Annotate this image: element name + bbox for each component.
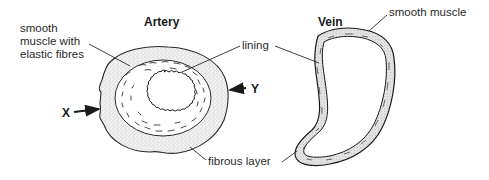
vein-cross-section: [295, 28, 395, 166]
leader-vein-smooth-muscle: [369, 15, 387, 31]
label-fibrous-layer: fibrous layer: [208, 155, 271, 168]
label-smooth-muscle-line3: elastic fibres: [20, 48, 84, 61]
marker-x: X: [62, 106, 70, 120]
label-smooth-muscle-line2: muscle with: [20, 35, 80, 48]
artery-title: Artery: [144, 15, 179, 29]
label-vein-smooth-muscle: smooth muscle: [389, 6, 466, 19]
leader-artery-fibrous: [190, 147, 206, 160]
artery-lining: [147, 70, 195, 111]
arrow-x: [74, 109, 99, 112]
marker-y: Y: [251, 82, 259, 96]
leader-vein-fibrous: [282, 151, 297, 162]
label-smooth-muscle-line1: smooth: [20, 22, 58, 35]
diagram-canvas: [0, 0, 489, 180]
artery-cross-section: [99, 47, 227, 154]
arrow-y: [230, 88, 246, 90]
label-lining: lining: [242, 39, 269, 52]
vein-title: Vein: [318, 15, 343, 29]
leader-vein-lining: [275, 46, 319, 63]
blood-vessel-diagram: Artery Vein smooth muscle with elastic f…: [0, 0, 489, 180]
